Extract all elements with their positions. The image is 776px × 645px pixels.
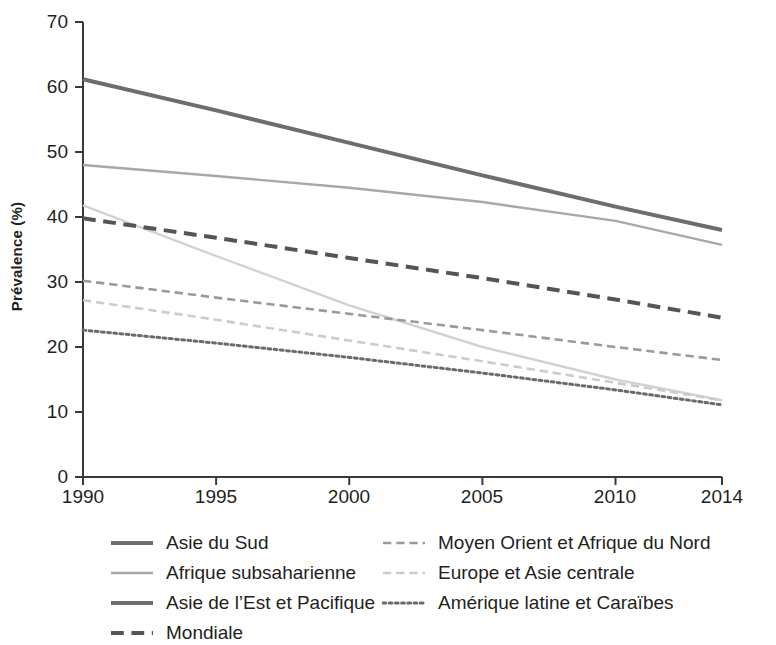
legend-column-right: Moyen Orient et Afrique du NordEurope et… bbox=[382, 528, 710, 618]
legend-line-swatch-icon bbox=[382, 536, 426, 550]
prevalence-line-chart: Prévalence (%) 70 60 50 40 30 20 10 0 19… bbox=[0, 0, 776, 645]
legend-line-swatch-icon bbox=[110, 566, 154, 580]
series-line-3 bbox=[83, 218, 722, 317]
legend-item-label: Amérique latine et Caraïbes bbox=[438, 593, 674, 613]
legend-line-swatch-icon bbox=[110, 596, 154, 610]
legend-item-label: Moyen Orient et Afrique du Nord bbox=[438, 533, 710, 553]
legend-line-swatch-icon bbox=[382, 596, 426, 610]
series-line-0 bbox=[83, 79, 722, 230]
series-line-5 bbox=[83, 300, 722, 400]
legend-item-label: Asie de l’Est et Pacifique bbox=[166, 593, 375, 613]
legend-item[interactable]: Asie de l’Est et Pacifique bbox=[110, 588, 375, 618]
legend-item[interactable]: Asie du Sud bbox=[110, 528, 375, 558]
legend-item[interactable]: Amérique latine et Caraïbes bbox=[382, 588, 710, 618]
legend-item-label: Asie du Sud bbox=[166, 533, 268, 553]
series-line-2 bbox=[83, 205, 722, 400]
legend-item[interactable]: Afrique subsaharienne bbox=[110, 558, 375, 588]
legend-column-left: Asie du SudAfrique subsaharienneAsie de … bbox=[110, 528, 375, 645]
series-line-1 bbox=[83, 165, 722, 245]
legend-line-swatch-icon bbox=[110, 626, 154, 640]
legend-line-swatch-icon bbox=[382, 566, 426, 580]
chart-plot-area bbox=[0, 0, 776, 520]
legend-item[interactable]: Mondiale bbox=[110, 618, 375, 645]
legend-item-label: Mondiale bbox=[166, 623, 243, 643]
legend-item-label: Europe et Asie centrale bbox=[438, 563, 634, 583]
legend-item-label: Afrique subsaharienne bbox=[166, 563, 356, 583]
legend-line-swatch-icon bbox=[110, 536, 154, 550]
legend-item[interactable]: Moyen Orient et Afrique du Nord bbox=[382, 528, 710, 558]
legend-item[interactable]: Europe et Asie centrale bbox=[382, 558, 710, 588]
series-line-6 bbox=[83, 330, 722, 405]
